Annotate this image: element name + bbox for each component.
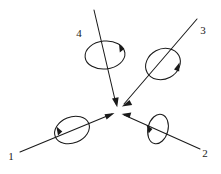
vector-4-line xyxy=(94,10,116,104)
vector-1-spin-arrowhead xyxy=(56,127,62,136)
vector-3-spin-arrowhead xyxy=(174,63,180,72)
figure-container: 1 2 3 4 xyxy=(0,0,221,174)
vector-2-group xyxy=(122,112,201,149)
vector-1-arrowhead xyxy=(105,113,115,119)
vector-4-spin-arrowhead xyxy=(119,44,124,53)
vector-2-line xyxy=(124,115,200,149)
vector-4-arrowhead xyxy=(112,97,119,107)
vector-2-arrowhead xyxy=(122,112,132,117)
vector-4-group xyxy=(84,10,127,107)
vector-3-line xyxy=(124,19,197,104)
label-vector-1: 1 xyxy=(8,150,14,162)
label-vector-2: 2 xyxy=(202,147,208,159)
label-vector-4: 4 xyxy=(76,27,82,39)
label-vector-3: 3 xyxy=(200,24,206,36)
vector-spin-diagram: 1 2 3 4 xyxy=(0,0,221,174)
vector-3-group xyxy=(122,19,197,107)
vector-1-group xyxy=(20,111,115,152)
vector-1-line xyxy=(20,114,112,152)
